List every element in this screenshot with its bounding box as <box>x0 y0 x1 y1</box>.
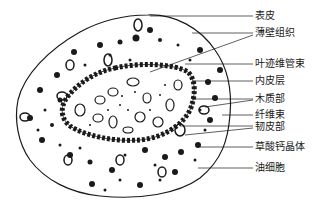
leader-lines <box>150 16 253 168</box>
label-fiber-bundle: 纤维束 <box>255 109 285 121</box>
label-calcium-oxalate-crystal: 草酸钙晶体 <box>255 141 305 153</box>
label-leaf-trace-bundle: 叶迹维管束 <box>255 58 305 70</box>
cross-section-diagram: 表皮 薄壁组织 叶迹维管束 内皮层 木质部 纤维束 韧皮部 草酸钙晶体 油细胞 <box>0 0 315 206</box>
label-parenchyma: 薄壁组织 <box>255 27 295 39</box>
epidermis-outline <box>17 15 231 197</box>
label-epidermis: 表皮 <box>255 10 275 22</box>
label-endodermis: 内皮层 <box>255 75 285 87</box>
label-xylem: 木质部 <box>255 93 285 105</box>
vascular-bundles <box>75 78 182 133</box>
label-phloem: 韧皮部 <box>255 121 285 133</box>
stele-dots <box>89 84 166 126</box>
label-oil-cell: 油细胞 <box>255 162 285 174</box>
parenchyma-dots <box>27 27 223 192</box>
